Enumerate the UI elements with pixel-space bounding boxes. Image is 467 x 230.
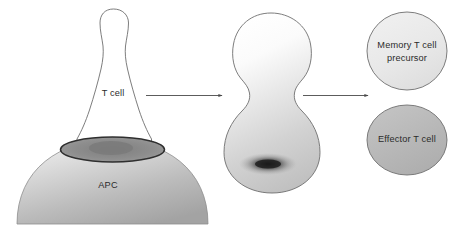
apc-label: APC — [98, 180, 118, 190]
effector-label: Effector T cell — [378, 134, 436, 144]
memory-precursor-circle — [367, 12, 447, 90]
stage-t-cell-apc-conjugate: T cell APC — [17, 9, 208, 224]
stage-dividing-t-cell — [224, 13, 320, 193]
polarized-dark-pole-core — [255, 159, 281, 168]
memory-precursor-label-line2: precursor — [387, 53, 427, 63]
t-cell-label: T cell — [102, 88, 125, 98]
t-cell-differentiation-diagram: T cell APC Memory T cell precursor Effec… — [0, 0, 467, 230]
figure-root: T cell APC Memory T cell precursor Effec… — [0, 0, 467, 230]
stage-daughter-cells: Memory T cell precursor Effector T cell — [367, 12, 447, 175]
t-cell-body — [77, 9, 152, 146]
immune-synapse-core — [89, 141, 133, 155]
memory-precursor-label-line1: Memory T cell — [377, 40, 436, 50]
